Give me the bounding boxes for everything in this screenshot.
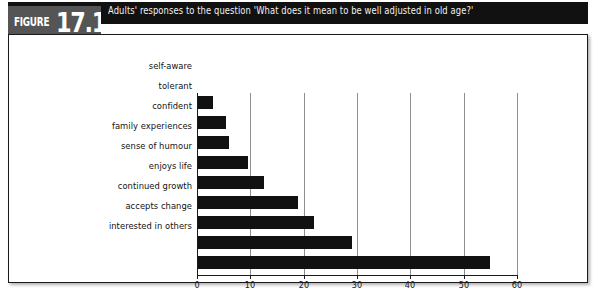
x-tick-20 xyxy=(304,275,305,279)
x-tick-label: 40 xyxy=(398,280,422,290)
x-tick-50 xyxy=(464,275,465,279)
bar-family-experiences xyxy=(197,156,248,169)
figure-badge-word: FIGURE xyxy=(14,15,49,29)
category-label: family experiences xyxy=(12,120,192,131)
x-tick-label: 20 xyxy=(292,280,316,290)
x-tick-60 xyxy=(517,275,518,279)
bar-continued-growth xyxy=(197,216,314,229)
bar-enjoys-life xyxy=(197,196,298,209)
gridline-30 xyxy=(357,93,358,275)
bar-tolerant xyxy=(197,116,226,129)
category-label: continued growth xyxy=(12,180,192,191)
x-tick-label: 30 xyxy=(345,280,369,290)
category-label: sense of humour xyxy=(12,140,192,151)
bar-confident xyxy=(197,136,229,149)
x-tick-label: 60 xyxy=(505,280,529,290)
category-label: self-aware xyxy=(12,60,192,71)
bar-interested-in-others xyxy=(197,256,490,269)
x-tick-label: 0 xyxy=(185,280,209,290)
x-tick-10 xyxy=(250,275,251,279)
category-label: confident xyxy=(12,100,192,111)
gridline-40 xyxy=(410,93,411,275)
plot-area xyxy=(197,93,517,275)
bar-self-aware xyxy=(197,96,213,109)
gridline-60 xyxy=(517,93,518,275)
category-axis-labels: self-aware tolerant confident family exp… xyxy=(9,35,192,284)
x-tick-0 xyxy=(197,275,198,279)
figure-title: Adults' responses to the question 'What … xyxy=(108,5,572,16)
figure-page: FIGURE 17.1 Adults' responses to the que… xyxy=(0,0,599,292)
x-tick-30 xyxy=(357,275,358,279)
y-axis-line xyxy=(197,93,198,275)
chart-frame: self-aware tolerant confident family exp… xyxy=(8,34,588,283)
category-label: enjoys life xyxy=(12,160,192,171)
category-label: tolerant xyxy=(12,80,192,91)
category-label: accepts change xyxy=(12,200,192,211)
x-tick-label: 10 xyxy=(238,280,262,290)
bar-accepts-change xyxy=(197,236,352,249)
x-tick-40 xyxy=(410,275,411,279)
gridline-50 xyxy=(464,93,465,275)
x-tick-label: 50 xyxy=(452,280,476,290)
category-label: interested in others xyxy=(12,220,192,231)
bar-sense-of-humour xyxy=(197,176,264,189)
